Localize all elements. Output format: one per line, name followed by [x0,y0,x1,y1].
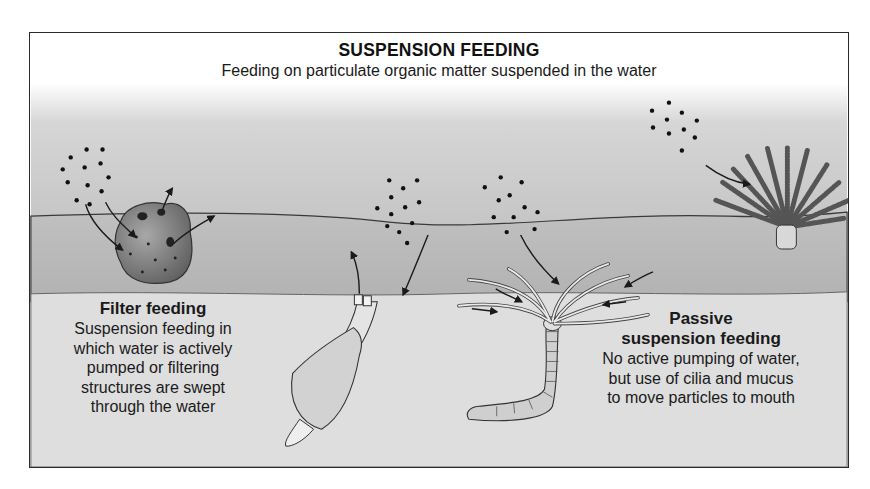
filter-feeding-panel: Filter feeding Suspension feeding in whi… [40,299,266,417]
diagram-frame: SUSPENSION FEEDING Feeding on particulat… [29,32,849,468]
filter-feeding-line-5: through the water [40,397,266,417]
passive-feeding-heading-1: Passive [570,309,832,329]
passive-feeding-heading-2: suspension feeding [570,329,832,349]
passive-feeding-line-1: No active pumping of water, [570,349,832,369]
diagram-subtitle: Feeding on particulate organic matter su… [30,62,848,80]
filter-feeding-heading: Filter feeding [40,299,266,319]
filter-feeding-line-2: which water is actively [40,339,266,359]
diagram-title: SUSPENSION FEEDING [30,40,848,61]
filter-feeding-line-3: pumped or filtering [40,358,266,378]
passive-feeding-line-2: but use of cilia and mucus [570,369,832,389]
filter-feeding-line-4: structures are swept [40,378,266,398]
passive-feeding-line-3: to move particles to mouth [570,388,832,408]
sponge [115,203,192,284]
filter-feeding-line-1: Suspension feeding in [40,319,266,339]
passive-feeding-panel: Passive suspension feeding No active pum… [570,309,832,408]
